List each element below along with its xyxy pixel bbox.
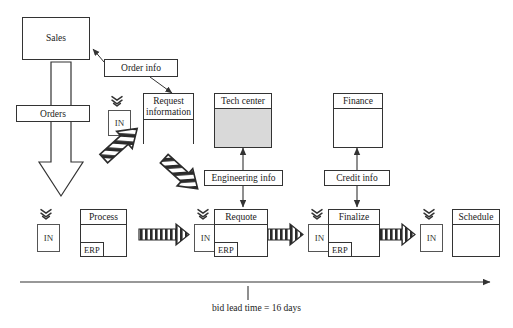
push-arrow-process-to-requote [139,224,189,245]
orders-flow-arrow [39,62,83,196]
flow-label-credit-info[interactable]: Credit info [324,170,390,186]
flow-label-order-info[interactable]: Order info [104,59,178,77]
timeline-axis [20,282,490,300]
diagonal-push-arrow-down [156,150,205,197]
flow-label-engineering-info-text: Engineering info [211,173,275,183]
diagram-canvas: Sales Orders Order info IN Request infor… [0,0,513,328]
diagonal-push-arrow-up [96,120,145,167]
flow-label-credit-info-text: Credit info [336,173,377,183]
flow-label-orders[interactable]: Orders [16,105,90,122]
connector-layer [0,0,513,328]
flow-label-engineering-info[interactable]: Engineering info [204,170,283,186]
flow-label-orders-text: Orders [40,109,66,119]
push-arrow-finalize-to-schedule [380,224,415,245]
flow-label-order-info-text: Order info [121,63,161,73]
push-arrow-requote-to-finalize [268,224,303,245]
